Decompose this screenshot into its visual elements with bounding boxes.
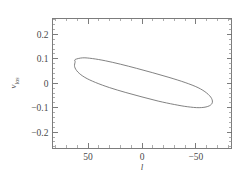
- y-tick-label: 0.2: [37, 30, 49, 40]
- x-tick-label: −50: [188, 152, 203, 162]
- x-tick-label: 0: [140, 152, 145, 162]
- figure-background: [0, 0, 250, 177]
- x-tick-label: 50: [83, 152, 93, 162]
- y-tick-label: −0.2: [31, 128, 48, 138]
- plot-canvas: 500−50 0.20.10−0.1−0.2 l vlos: [0, 0, 250, 177]
- chart-figure: 500−50 0.20.10−0.1−0.2 l vlos: [0, 0, 250, 177]
- y-tick-label: −0.1: [31, 103, 48, 113]
- y-tick-label: 0.1: [37, 54, 49, 64]
- y-tick-label: 0: [44, 79, 49, 89]
